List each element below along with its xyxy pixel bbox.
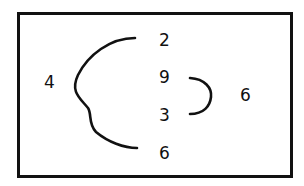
large-bracket — [75, 38, 137, 148]
small-bracket — [190, 78, 211, 114]
right-label: 6 — [240, 87, 251, 104]
column-number-2: 9 — [159, 69, 170, 86]
brackets — [0, 0, 304, 186]
column-number-1: 2 — [159, 32, 170, 49]
column-number-3: 3 — [159, 107, 170, 124]
column-number-4: 6 — [159, 145, 170, 162]
left-label: 4 — [44, 74, 55, 91]
